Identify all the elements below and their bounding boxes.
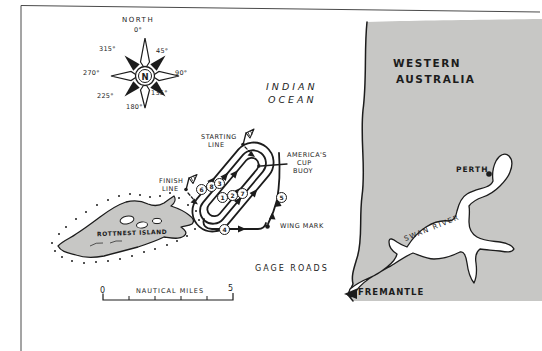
map-canvas: N [0,0,542,351]
bearing-270: 270° [83,70,100,77]
bearing-0: 0° [134,27,142,34]
wing-mark-label: WING MARK [280,223,324,230]
indian-ocean-label-1: INDIAN [266,82,318,92]
map-linework: N [0,0,542,351]
bearing-90: 90° [175,70,187,77]
leg-mark-5: 5 [276,192,287,203]
bearing-180: 180° [126,104,143,111]
bearing-225: 225° [97,93,114,100]
western-australia-label-2: AUSTRALIA [396,74,476,85]
rottnest-island-shape [51,192,200,264]
finish-line-label-2: LINE [162,186,179,193]
leg-mark-3: 3 [214,178,225,189]
starting-line-label-2: LINE [208,142,225,149]
compass-center-letter: N [141,72,148,82]
gage-roads-label: GAGE ROADS [255,265,329,273]
bearing-135: 135° [151,90,168,97]
perth-label: PERTH [456,166,488,174]
compass-rose-icon: N [111,38,179,108]
americas-cup-buoy-label-1: AMERICA'S [287,152,327,159]
indian-ocean-label-2: OCEAN [268,95,317,105]
americas-cup-buoy-label-3: BUOY [293,168,313,175]
leg-mark-4: 4 [219,224,230,235]
scale-zero-label: 0 [100,287,105,295]
americas-cup-buoy-label-2: CUP [297,160,312,167]
scale-unit-label: NAUTICAL MILES [136,288,204,295]
fremantle-label: FREMANTLE [358,288,424,297]
starting-line-label-1: STARTING [201,134,237,141]
finish-line-label-1: FINISH [159,178,183,185]
western-australia-label-1: WESTERN [393,58,461,69]
bearing-315: 315° [99,46,116,53]
scale-five-label: 5 [228,285,233,293]
leg-mark-7: 7 [237,188,248,199]
bearing-45: 45° [156,48,168,55]
compass-north-label: NORTH [122,17,154,24]
